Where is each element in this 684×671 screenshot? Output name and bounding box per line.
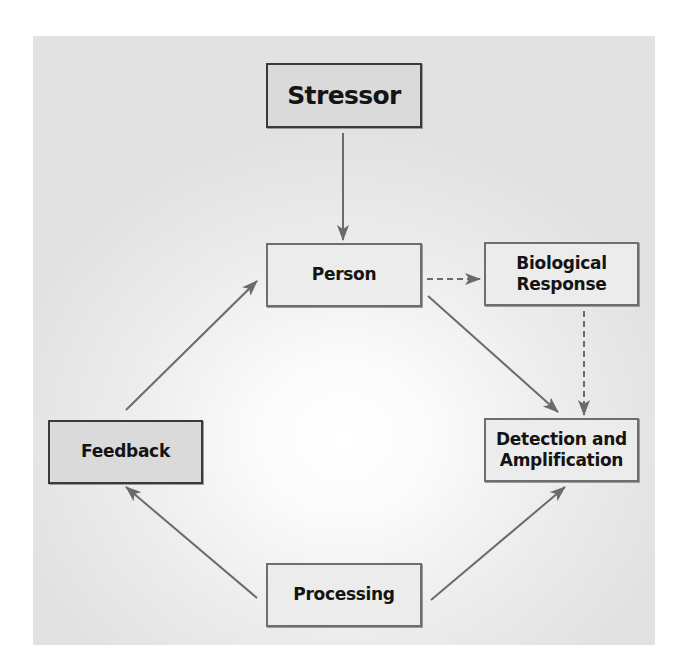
node-processing: Processing bbox=[266, 563, 422, 627]
node-person-label: Person bbox=[312, 264, 376, 285]
arrow-person-to-detection bbox=[428, 296, 558, 412]
arrow-feedback-to-person bbox=[126, 281, 257, 410]
node-processing-label: Processing bbox=[293, 584, 394, 605]
node-biological-response: Biological Response bbox=[484, 242, 639, 306]
node-person: Person bbox=[266, 243, 422, 307]
node-feedback-label: Feedback bbox=[81, 441, 170, 462]
node-feedback: Feedback bbox=[48, 420, 203, 484]
node-detection-amplification: Detection and Amplification bbox=[484, 418, 639, 482]
arrow-processing-to-detection bbox=[431, 487, 565, 600]
node-detection-amplification-label: Detection and Amplification bbox=[496, 429, 627, 472]
node-biological-response-label: Biological Response bbox=[516, 253, 606, 296]
node-stressor: Stressor bbox=[266, 63, 422, 128]
node-stressor-label: Stressor bbox=[287, 80, 401, 111]
arrow-processing-to-feedback bbox=[126, 487, 257, 598]
